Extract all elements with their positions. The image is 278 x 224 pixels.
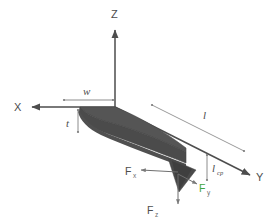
- figure-background: [0, 0, 278, 224]
- x-axis-label: X: [14, 101, 22, 113]
- dimension-w-label: w: [83, 85, 91, 97]
- y-axis-label: Y: [256, 171, 264, 183]
- dimension-l-label: l: [203, 109, 206, 121]
- dimension-lcp-subscript: cp: [217, 169, 224, 176]
- figure-container: Z X Y w: [0, 0, 278, 224]
- force-z-label: F: [147, 204, 153, 216]
- force-y-label: F: [199, 182, 205, 194]
- z-axis-label: Z: [111, 8, 118, 20]
- dimension-lcp-label: l: [212, 162, 215, 174]
- force-x-label: F: [125, 165, 131, 177]
- force-z-subscript: z: [155, 211, 158, 218]
- force-diagram-svg: Z X Y w: [0, 0, 278, 224]
